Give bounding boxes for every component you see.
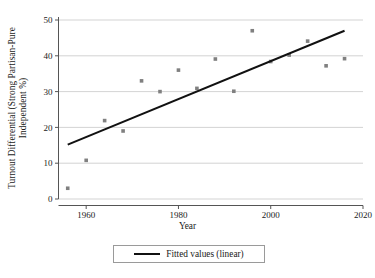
legend-entry-label: Fitted values (linear) [166, 249, 243, 259]
chart-legend: Fitted values (linear) [113, 245, 265, 263]
data-point [306, 39, 310, 43]
data-point [66, 186, 70, 190]
y-tick-label-20: 20 [44, 123, 54, 133]
scatter-plot-canvas: 010203040501960198020002020 [0, 0, 375, 278]
y-tick-label-40: 40 [44, 51, 54, 61]
data-point [232, 89, 236, 93]
data-point [195, 87, 199, 91]
y-tick-label-50: 50 [44, 15, 54, 25]
chart-figure: Turnout Differential (Strong Partisan-Pu… [0, 0, 375, 278]
data-point [140, 79, 144, 83]
data-point [103, 119, 107, 123]
y-tick-label-10: 10 [44, 158, 54, 168]
data-point-series [66, 29, 346, 190]
data-point [250, 29, 254, 33]
x-tick-label-1960: 1960 [77, 210, 96, 220]
data-point [214, 57, 218, 61]
y-tick-label-30: 30 [44, 87, 54, 97]
data-point [324, 64, 328, 68]
data-point [121, 129, 125, 133]
x-tick-label-2020: 2020 [354, 210, 373, 220]
y-tick-label-0: 0 [48, 194, 53, 204]
x-axis-label: Year [0, 221, 375, 231]
data-point [84, 159, 88, 163]
x-tick-label-1980: 1980 [169, 210, 188, 220]
data-point [177, 68, 181, 72]
data-point [343, 57, 347, 61]
legend-line-swatch [134, 253, 160, 255]
x-tick-label-2000: 2000 [262, 210, 281, 220]
data-point [158, 90, 162, 94]
